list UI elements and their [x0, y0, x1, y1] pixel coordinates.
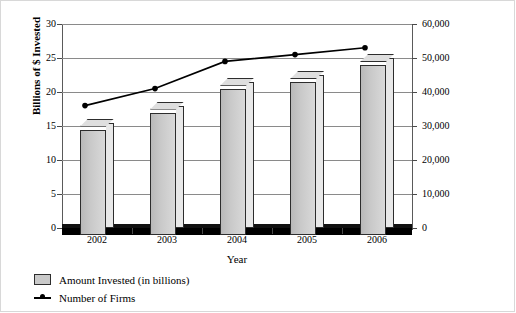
x-tick-mark [132, 228, 133, 234]
x-tick-label-2004: 2004 [207, 234, 267, 245]
legend-label: Number of Firms [59, 292, 135, 304]
legend-label: Amount Invested (in billions) [59, 274, 189, 286]
x-tick-label-2003: 2003 [137, 234, 197, 245]
bar-front-face [80, 130, 106, 235]
legend-item-amount-invested: Amount Invested (in billions) [34, 272, 189, 287]
right-tick-mark [412, 194, 417, 195]
right-tick-label: 40,000 [422, 87, 450, 97]
right-tick-mark [412, 24, 417, 25]
right-tick-label: 30,000 [422, 121, 450, 131]
left-tick-label: 20 [22, 87, 56, 97]
right-tick-mark [412, 92, 417, 93]
bar-side-face [106, 123, 114, 228]
x-tick-mark [272, 228, 273, 234]
bar-swatch-icon [34, 274, 51, 285]
bar-series [62, 24, 412, 235]
line-marker-icon [34, 292, 51, 303]
right-tick-mark [412, 228, 417, 229]
right-axis-line [412, 24, 413, 230]
right-tick-label: 0 [422, 223, 427, 233]
left-tick-label: 30 [22, 19, 56, 29]
x-axis-title: Year [62, 253, 412, 265]
bar-side-face [316, 75, 324, 228]
left-tick-label: 0 [22, 223, 56, 233]
x-tick-label-2006: 2006 [347, 234, 407, 245]
right-tick-mark [412, 58, 417, 59]
bar-front-face [360, 65, 386, 235]
right-tick-label: 20,000 [422, 155, 450, 165]
right-tick-label: 60,000 [422, 19, 450, 29]
right-tick-label: 50,000 [422, 53, 450, 63]
bar-front-face [220, 89, 246, 235]
x-tick-label-2005: 2005 [277, 234, 337, 245]
left-tick-label: 10 [22, 155, 56, 165]
right-tick-mark [412, 160, 417, 161]
legend-item-number-of-firms: Number of Firms [34, 290, 189, 305]
bar-side-face [386, 58, 394, 228]
chart-container: Billions of $ Invested Number of Small C… [0, 0, 516, 313]
left-tick-label: 15 [22, 121, 56, 131]
bar-front-face [150, 113, 176, 235]
x-tick-label-2002: 2002 [67, 234, 127, 245]
x-tick-mark [202, 228, 203, 234]
left-tick-label: 25 [22, 53, 56, 63]
legend: Amount Invested (in billions) Number of … [34, 272, 189, 308]
bar-front-face [290, 82, 316, 235]
right-tick-label: 10,000 [422, 189, 450, 199]
bar-side-face [246, 82, 254, 228]
left-tick-label: 5 [22, 189, 56, 199]
x-tick-mark [342, 228, 343, 234]
bar-side-face [176, 106, 184, 228]
right-tick-mark [412, 126, 417, 127]
